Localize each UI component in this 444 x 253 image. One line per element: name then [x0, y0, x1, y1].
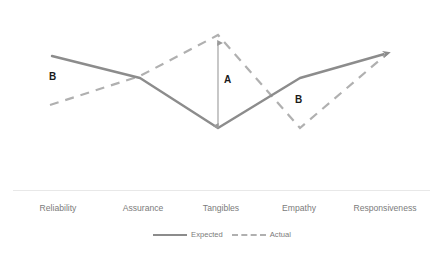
category-label-empathy: Empathy: [282, 204, 316, 213]
category-label-responsiveness: Responsiveness: [353, 204, 416, 213]
solid-line-swatch-icon: [153, 234, 187, 236]
annotation-label-b-left: B: [49, 72, 56, 82]
series-line-actual: [50, 35, 388, 128]
category-label-assurance: Assurance: [123, 204, 164, 213]
legend-label-actual: Actual: [270, 231, 291, 239]
legend-item-expected: Expected: [153, 231, 223, 239]
chart-plot-area: [0, 0, 444, 253]
servqual-gap-chart: B A B Reliability Assurance Tangibles Em…: [0, 0, 444, 253]
annotation-label-b-right: B: [295, 95, 302, 105]
legend-label-expected: Expected: [191, 231, 223, 239]
legend-item-actual: Actual: [232, 231, 291, 239]
category-label-tangibles: Tangibles: [203, 204, 239, 213]
chart-legend: Expected Actual: [0, 228, 444, 242]
dashed-line-swatch-icon: [232, 234, 266, 236]
category-label-reliability: Reliability: [40, 204, 77, 213]
annotation-label-a: A: [224, 75, 231, 85]
